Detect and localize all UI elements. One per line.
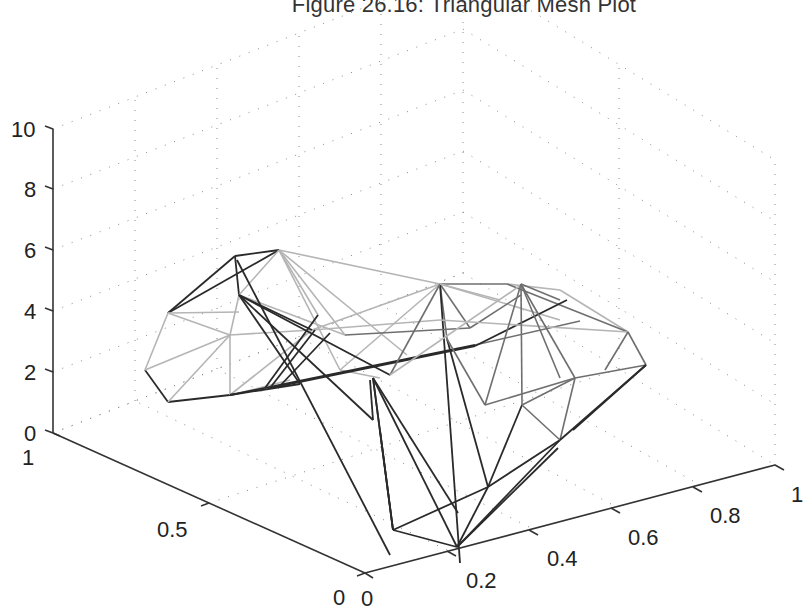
svg-text:0: 0 (361, 586, 373, 606)
grid-floor (53, 273, 693, 573)
svg-text:1: 1 (22, 445, 34, 470)
grid-back-right-wall (463, 0, 775, 465)
svg-text:0.4: 0.4 (547, 546, 578, 571)
y-axis-tick-labels: 1 0.5 0 (22, 445, 345, 606)
svg-text:0.6: 0.6 (628, 525, 659, 550)
svg-text:1: 1 (791, 482, 803, 507)
svg-text:2: 2 (24, 360, 36, 385)
svg-text:0.2: 0.2 (466, 568, 497, 593)
triangular-mesh (145, 250, 646, 563)
axes-lines (53, 129, 775, 573)
x-axis-tick-labels: 0 0.2 0.4 0.6 0.8 1 (361, 482, 803, 606)
svg-text:6: 6 (24, 238, 36, 263)
z-axis-tick-labels: 0 2 4 6 8 10 (11, 117, 36, 446)
svg-text:8: 8 (24, 177, 36, 202)
mesh-plot-canvas: 0 2 4 6 8 10 1 0.5 0 0 0.2 0.4 0.6 0.8 1 (0, 0, 812, 606)
svg-text:0.8: 0.8 (710, 503, 741, 528)
svg-text:0.5: 0.5 (157, 517, 188, 542)
svg-text:10: 10 (11, 117, 35, 142)
svg-text:0: 0 (333, 585, 345, 606)
svg-text:0: 0 (24, 421, 36, 446)
z-axis-ticks (45, 126, 53, 433)
svg-text:4: 4 (24, 299, 36, 324)
